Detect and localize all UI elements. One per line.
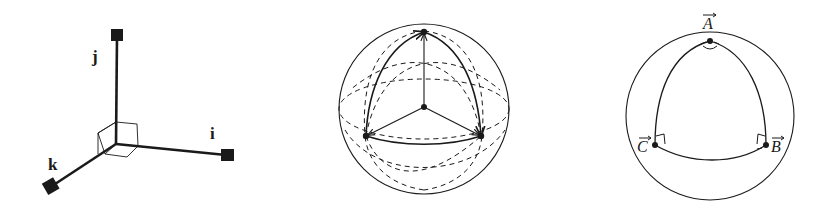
radius-vectors	[368, 34, 479, 135]
i-label: i	[210, 124, 215, 143]
k-endpoint-square	[42, 177, 60, 195]
k-label: k	[48, 155, 58, 174]
svg-text:A: A	[702, 15, 713, 32]
triangle-arcs	[655, 41, 766, 160]
label-c: C	[637, 136, 651, 155]
angle-markers	[656, 42, 765, 149]
vertex-dots	[652, 38, 769, 148]
i-axis	[116, 144, 226, 155]
sphere-octant-figure	[339, 24, 509, 194]
i-endpoint-square	[221, 149, 234, 161]
label-a: A	[702, 13, 716, 32]
basis-vectors-figure: j i k	[42, 29, 234, 195]
j-label: j	[91, 47, 98, 66]
svg-text:C: C	[637, 138, 648, 155]
svg-text:B: B	[771, 138, 781, 155]
j-endpoint-square	[111, 29, 123, 41]
label-b: B	[771, 136, 784, 155]
spherical-triangle-abc-figure: A C B	[626, 13, 794, 200]
diagram-canvas: j i k	[0, 0, 830, 212]
sphere-outline	[626, 32, 794, 200]
k-axis	[52, 144, 116, 186]
j-axis	[116, 37, 117, 144]
